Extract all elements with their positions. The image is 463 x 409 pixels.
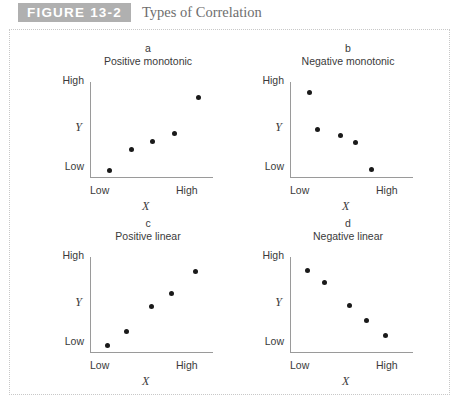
panel-c-plot-area: High Low Y Low High X (90, 257, 213, 353)
data-point (369, 167, 374, 172)
panel-a-x-high-label: High (176, 184, 198, 196)
panel-c-x-axis (90, 352, 213, 353)
data-point (383, 333, 388, 338)
data-point (150, 139, 155, 144)
panel-d-x-axis-name: X (342, 374, 349, 389)
panel-a-x-axis (90, 177, 213, 178)
panel-c-x-axis-name: X (142, 374, 149, 389)
panel-d-y-high-label: High (262, 249, 284, 261)
data-point (193, 269, 198, 274)
panel-c-letter: c (48, 217, 248, 229)
panel-a-letter: a (48, 42, 248, 54)
panel-c-y-axis (90, 257, 91, 353)
panel-a-caption: Positive monotonic (48, 55, 248, 67)
data-point (196, 95, 201, 100)
data-point (307, 90, 312, 95)
panel-d-letter: d (248, 217, 448, 229)
panel-b-x-high-label: High (376, 184, 398, 196)
panel-a-positive-monotonic: a Positive monotonic High Low Y Low High… (48, 36, 248, 211)
data-point (364, 318, 369, 323)
panel-d-negative-linear: d Negative linear High Low Y Low High X (248, 211, 448, 386)
panel-d-x-axis (290, 352, 413, 353)
panel-c-positive-linear: c Positive linear High Low Y Low High X (48, 211, 248, 386)
panel-c-y-low-label: Low (65, 335, 84, 347)
figure-header: FIGURE 13-2 Types of Correlation (18, 3, 262, 22)
data-point (105, 343, 110, 348)
panel-a-y-axis-name: Y (75, 120, 82, 135)
data-point (347, 303, 352, 308)
panel-a-y-low-label: Low (65, 160, 84, 172)
panel-b-y-axis-name: Y (275, 120, 282, 135)
panel-d-y-axis (290, 257, 291, 353)
data-point (169, 291, 174, 296)
data-point (353, 140, 358, 145)
panel-b-y-high-label: High (262, 74, 284, 86)
panel-a-y-high-label: High (62, 74, 84, 86)
panel-b-letter: b (248, 42, 448, 54)
data-point (172, 131, 177, 136)
panel-d-caption: Negative linear (248, 230, 448, 242)
data-point (322, 280, 327, 285)
panel-b-y-low-label: Low (265, 160, 284, 172)
data-point (107, 168, 112, 173)
figure-number-badge: FIGURE 13-2 (18, 3, 131, 22)
panel-d-plot-area: High Low Y Low High X (290, 257, 413, 353)
panel-b-plot-area: High Low Y Low High X (290, 82, 413, 178)
panel-a-plot-area: High Low Y Low High X (90, 82, 213, 178)
data-point (305, 268, 310, 273)
data-point (149, 304, 154, 309)
panel-b-negative-monotonic: b Negative monotonic High Low Y Low High… (248, 36, 448, 211)
panel-b-x-axis (290, 177, 413, 178)
panel-b-y-axis (290, 82, 291, 178)
panel-b-caption: Negative monotonic (248, 55, 448, 67)
data-point (338, 133, 343, 138)
data-point (129, 147, 134, 152)
figure-title: Types of Correlation (142, 4, 262, 21)
panel-c-x-low-label: Low (90, 359, 109, 371)
panel-d-x-low-label: Low (290, 359, 309, 371)
panel-c-x-high-label: High (176, 359, 198, 371)
data-point (315, 127, 320, 132)
panel-d-y-axis-name: Y (275, 295, 282, 310)
panel-d-x-high-label: High (376, 359, 398, 371)
panel-d-y-low-label: Low (265, 335, 284, 347)
panel-c-y-high-label: High (62, 249, 84, 261)
panel-b-x-low-label: Low (290, 184, 309, 196)
panel-a-y-axis (90, 82, 91, 178)
panel-c-y-axis-name: Y (75, 295, 82, 310)
panel-a-x-low-label: Low (90, 184, 109, 196)
panel-c-caption: Positive linear (48, 230, 248, 242)
data-point (124, 329, 129, 334)
